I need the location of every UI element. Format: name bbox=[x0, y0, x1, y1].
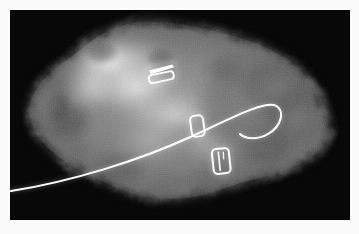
radiograph-viewport bbox=[0, 0, 359, 234]
exposure-field bbox=[10, 10, 350, 220]
radiograph-canvas bbox=[10, 10, 350, 220]
